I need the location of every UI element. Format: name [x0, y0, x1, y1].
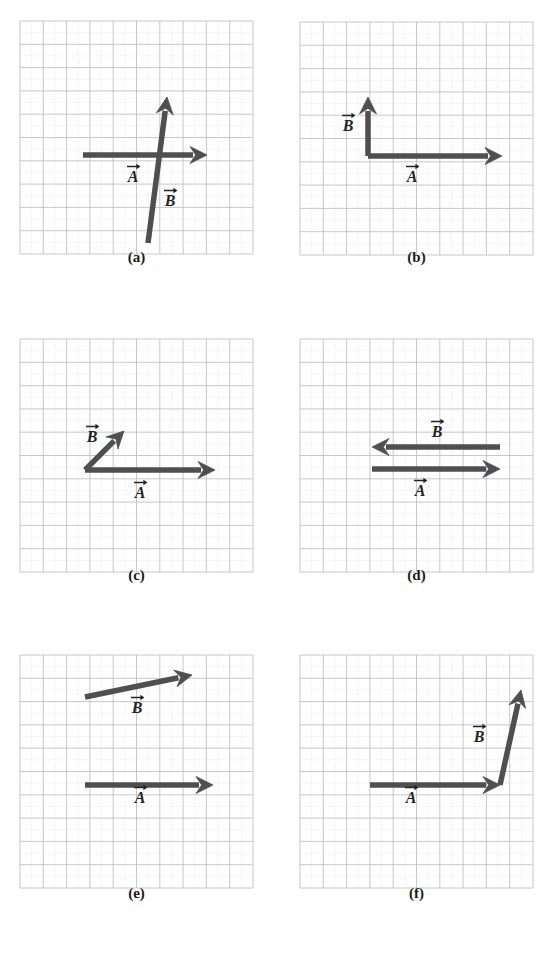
vector-label-b: B	[164, 188, 178, 209]
panel-d: BA(d)	[300, 339, 533, 584]
panel-d-caption: (d)	[407, 567, 425, 584]
panel-e-caption: (e)	[128, 885, 145, 902]
panel-d-vector-a: A	[372, 461, 500, 500]
panel-b: AB(b)	[300, 22, 533, 266]
panel-d-vector-b: B	[372, 419, 500, 456]
figure-sheet: AB(a)AB(b)AB(c)BA(d)BA(e)AB(f)	[0, 0, 553, 954]
vector-label-letter: B	[473, 728, 485, 745]
panel-a-caption: (a)	[128, 249, 146, 266]
panel-f-vector-a: A	[370, 777, 500, 807]
panel-a-vector-a: A	[83, 147, 207, 186]
panel-a: AB(a)	[20, 21, 253, 266]
vector-figure-canvas: AB(a)AB(b)AB(c)BA(d)BA(e)AB(f)	[0, 0, 553, 954]
panel-e: BA(e)	[20, 655, 253, 902]
panel-c-vector-a: A	[85, 462, 215, 502]
vector-label-letter: A	[134, 789, 146, 806]
vector-label-accent-head	[136, 164, 140, 169]
vector-shaft	[148, 111, 165, 243]
vector-label-b: B	[86, 424, 100, 445]
vector-label-letter: A	[134, 484, 146, 501]
vector-label-letter: A	[406, 168, 418, 185]
vector-label-letter: B	[131, 699, 143, 716]
panel-a-vector-b: B	[148, 97, 177, 243]
vector-shaft	[85, 678, 178, 697]
vector-label-letter: B	[86, 428, 98, 445]
vector-label-b: B	[131, 695, 145, 716]
panel-f-vector-b: B	[473, 690, 526, 785]
vector-label-letter: A	[405, 789, 417, 806]
vector-label-b: B	[431, 419, 445, 440]
panel-b-grid	[300, 22, 533, 255]
panel-c-vector-b: B	[85, 424, 124, 470]
panel-f-grid	[300, 655, 533, 888]
panel-f-caption: (f)	[409, 885, 424, 902]
panel-d-grid	[300, 339, 533, 572]
vector-label-b: B	[473, 724, 487, 745]
vector-label-accent-head	[95, 424, 99, 429]
vector-label-b: B	[342, 113, 356, 134]
vector-label-letter: A	[127, 168, 139, 185]
vector-label-letter: A	[414, 482, 426, 499]
panel-b-vector-a: A	[368, 148, 502, 186]
vector-label-a: A	[405, 785, 419, 806]
vector-label-a: A	[406, 164, 420, 185]
vector-label-a: A	[127, 164, 141, 185]
panel-b-caption: (b)	[407, 249, 425, 266]
panel-c: AB(c)	[20, 339, 253, 584]
panel-e-grid	[20, 655, 253, 888]
bottom-cropped-caption-artifact	[8, 943, 308, 953]
vector-shaft	[500, 704, 518, 785]
vector-label-accent-head	[440, 419, 444, 424]
vector-label-a: A	[414, 478, 428, 499]
panel-c-caption: (c)	[128, 567, 145, 584]
panel-c-grid	[20, 339, 253, 572]
vector-label-a: A	[134, 785, 148, 806]
vector-label-accent-head	[415, 164, 419, 169]
vector-label-accent-head	[351, 113, 355, 118]
vector-label-accent-head	[173, 188, 177, 193]
vector-label-accent-head	[143, 480, 147, 485]
vector-label-accent-head	[140, 695, 144, 700]
vector-label-letter: B	[342, 117, 354, 134]
vector-label-letter: B	[164, 192, 176, 209]
vector-label-a: A	[134, 480, 148, 501]
panel-e-vector-b: B	[85, 670, 192, 716]
vector-label-letter: B	[431, 423, 443, 440]
panel-a-grid	[20, 21, 253, 254]
panel-f: AB(f)	[300, 655, 533, 902]
panel-e-vector-a: A	[85, 777, 213, 807]
